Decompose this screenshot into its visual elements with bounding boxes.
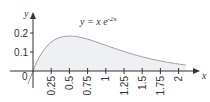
origin-label: 0 (22, 71, 28, 82)
y-tick-label: 0.2 (14, 28, 28, 39)
x-axis-arrow-icon (193, 68, 200, 74)
x-tick-label: 1.75 (155, 76, 166, 96)
chart: 0.250.50.7511.251.51.752 0.10.2 x y 0 y … (0, 0, 210, 102)
x-tick-label: 2 (173, 76, 184, 82)
x-ticks: 0.250.50.7511.251.51.752 (46, 68, 184, 95)
y-axis-label: y (23, 8, 29, 19)
y-tick-label: 0.1 (14, 47, 28, 58)
x-tick-label: 1.25 (119, 76, 130, 96)
x-tick-label: 0.75 (82, 76, 93, 96)
x-tick-label: 1 (100, 76, 111, 82)
x-tick-label: 1.5 (137, 76, 148, 90)
shaded-area (33, 36, 186, 71)
equation-annotation: y = x e-2x (79, 15, 117, 27)
curve-negative-extension (28, 71, 33, 84)
x-axis-label: x (201, 70, 207, 81)
y-ticks: 0.10.2 (14, 28, 33, 58)
y-axis-arrow-icon (30, 12, 36, 19)
x-tick-label: 0.5 (64, 76, 75, 90)
x-tick-label: 0.25 (46, 76, 57, 96)
